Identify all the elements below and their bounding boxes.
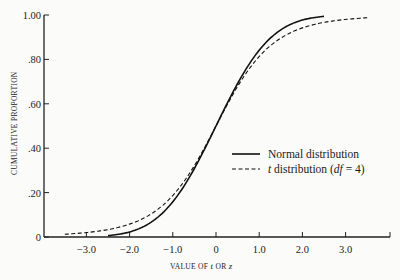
legend-label-t-mid: distribution ( xyxy=(271,163,334,176)
x-tick-label: 3.0 xyxy=(339,244,352,255)
series-line-normal xyxy=(108,16,324,235)
y-tick-label: 0 xyxy=(36,232,41,243)
y-ticks: 0.20.40.60.801.00 xyxy=(23,10,49,243)
x-tick-label: 0 xyxy=(213,244,218,255)
legend-label-normal: Normal distribution xyxy=(268,148,359,160)
y-tick-label: 1.00 xyxy=(23,10,41,21)
legend-label-t: t distribution (df = 4) xyxy=(268,163,365,176)
y-tick-label: .20 xyxy=(28,188,41,199)
x-axis-label: VALUE OF t OR z xyxy=(170,261,233,271)
x-tick-label: −3.0 xyxy=(77,244,96,255)
y-axis-label: CUMULATIVE PROPORTION xyxy=(10,71,19,175)
cumulative-proportion-chart: −3.0−2.0−1.001.02.03.0 0.20.40.60.801.00… xyxy=(0,0,400,280)
y-tick-label: .40 xyxy=(28,143,41,154)
y-tick-label: .60 xyxy=(28,99,41,110)
x-tick-label: −2.0 xyxy=(120,244,139,255)
x-axis-label-z: z xyxy=(228,261,233,271)
x-tick-label: 1.0 xyxy=(253,244,266,255)
x-axis-label-part-3: OR xyxy=(213,262,228,271)
legend: Normal distribution t distribution (df =… xyxy=(232,148,365,176)
series-group xyxy=(65,16,367,235)
x-tick-label: 2.0 xyxy=(296,244,309,255)
axes xyxy=(44,15,390,237)
legend-label-t-suffix: = 4) xyxy=(343,163,365,176)
x-axis-label-part-1: VALUE OF xyxy=(170,262,210,271)
x-ticks: −3.0−2.0−1.001.02.03.0 xyxy=(77,232,352,255)
y-tick-label: .80 xyxy=(28,54,41,65)
x-tick-label: −1.0 xyxy=(163,244,182,255)
